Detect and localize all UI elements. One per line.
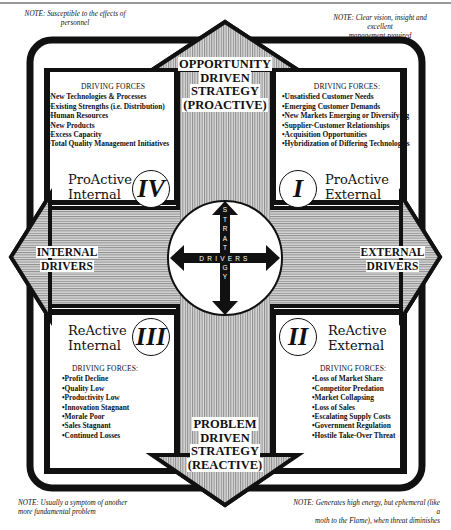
quadrant-i-numeral: I — [279, 170, 317, 208]
note-bottom-left: NOTE: Usually a symptom of another more … — [18, 499, 158, 517]
force-item: Loss of Sales — [312, 403, 422, 412]
svg-text:G: G — [222, 264, 227, 271]
note-top-left: NOTE: Susceptible to the effects of pers… — [20, 10, 130, 28]
note-top-right: NOTE: Clear vision, insight and excellen… — [320, 14, 440, 41]
svg-text:A: A — [223, 235, 228, 242]
quadrant-i-forces: DRIVING FORCES: Unsatisfied Customer Nee… — [282, 82, 412, 149]
center-drivers-label: DRIVERS — [199, 255, 250, 262]
force-item: Government Regulation — [312, 421, 422, 430]
force-item: Human Resources — [48, 111, 178, 120]
quadrant-iii-forces: DRIVING FORCES: Profit Decline Quality L… — [62, 364, 172, 440]
force-item: New Markets Emerging or Diversifying — [282, 111, 412, 120]
left-arrow-label: INTERNAL DRIVERS — [22, 246, 112, 273]
force-item: Emerging Customer Demands — [282, 102, 412, 111]
force-item: New Technologies & Processes — [48, 92, 178, 101]
svg-text:S: S — [223, 206, 228, 213]
svg-text:T: T — [223, 244, 227, 251]
force-item: Existing Strengths (i.e. Distribution) — [48, 102, 178, 111]
force-item: New Products — [48, 121, 178, 130]
quadrant-iii-numeral: III — [132, 318, 170, 356]
quadrant-iii-label: ReActive Internal — [68, 323, 127, 353]
force-item: Profit Decline — [62, 374, 172, 383]
quadrant-ii-label: ReActive External — [328, 323, 387, 353]
force-item: Sales Stagnant — [62, 421, 172, 430]
quadrant-ii-numeral: II — [279, 318, 317, 356]
force-item: Hostile Take-Over Threat — [312, 431, 422, 440]
quadrant-ii-forces: DRIVING FORCES: Loss of Market Share Com… — [312, 364, 422, 440]
svg-text:R: R — [223, 225, 228, 232]
force-item: Innovation Stagnant — [62, 403, 172, 412]
force-item: Continued Losses — [62, 431, 172, 440]
top-arrow-label: OPPORTUNITY DRIVEN STRATEGY (PROACTIVE) — [170, 58, 280, 112]
quadrant-i-label: ProActive External — [325, 172, 389, 202]
right-arrow-label: EXTERNAL DRIVERS — [345, 246, 440, 273]
force-item: Acquisition Opportunities — [282, 130, 412, 139]
force-item: Market Collapsing — [312, 393, 422, 402]
force-item: Supplier-Customer Relationships — [282, 121, 412, 130]
force-item: Unsatisfied Customer Needs — [282, 92, 412, 101]
force-item: Quality Low — [62, 384, 172, 393]
force-item: Escalating Supply Costs — [312, 412, 422, 421]
force-item: Productivity Low — [62, 393, 172, 402]
quadrant-iv-label: ProActive Internal — [68, 172, 132, 202]
force-item: Loss of Market Share — [312, 374, 422, 383]
svg-text:Y: Y — [223, 273, 228, 280]
force-item: Morale Poor — [62, 412, 172, 421]
bottom-arrow-label: PROBLEM DRIVEN STRATEGY (REACTIVE) — [170, 418, 280, 472]
force-item: Competitor Predation — [312, 384, 422, 393]
svg-text:T: T — [223, 216, 227, 223]
force-item: Hybridization of Differing Technologies — [282, 139, 412, 148]
force-item: Total Quality Management Initiatives — [48, 139, 178, 148]
quadrant-iv-numeral: IV — [132, 170, 170, 208]
force-item: Excess Capacity — [48, 130, 178, 139]
note-bottom-right: NOTE: Generates high energy, but ephemer… — [290, 499, 440, 526]
quadrant-iv-forces: DRIVING FORCES New Technologies & Proces… — [48, 82, 178, 149]
